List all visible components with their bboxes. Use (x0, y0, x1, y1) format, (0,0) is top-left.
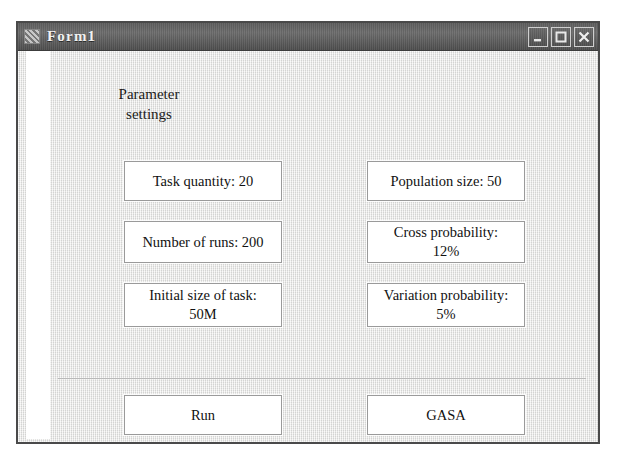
application-window: Form1 (16, 21, 600, 444)
run-button[interactable]: Run (124, 395, 282, 435)
maximize-button[interactable] (551, 27, 571, 47)
maximize-icon (554, 30, 568, 44)
window-controls (528, 27, 594, 47)
client-area: Parameter settings Task quantity: 20 Num… (18, 51, 598, 442)
close-icon (577, 30, 591, 44)
number-of-runs-button[interactable]: Number of runs: 200 (124, 221, 282, 263)
section-title: Parameter settings (74, 84, 224, 124)
minimize-button[interactable] (528, 27, 548, 47)
task-quantity-button[interactable]: Task quantity: 20 (124, 161, 282, 201)
app-icon (24, 29, 40, 44)
title-bar[interactable]: Form1 (18, 23, 598, 51)
cross-probability-button[interactable]: Cross probability: 12% (367, 221, 525, 263)
left-edge-strip (26, 51, 50, 439)
population-size-button[interactable]: Population size: 50 (367, 161, 525, 201)
initial-size-of-task-button[interactable]: Initial size of task: 50M (124, 283, 282, 327)
window-title: Form1 (47, 28, 96, 45)
section-divider (58, 378, 586, 379)
minimize-icon (531, 30, 545, 44)
variation-probability-button[interactable]: Variation probability: 5% (367, 283, 525, 327)
gasa-button[interactable]: GASA (367, 395, 525, 435)
close-button[interactable] (574, 27, 594, 47)
